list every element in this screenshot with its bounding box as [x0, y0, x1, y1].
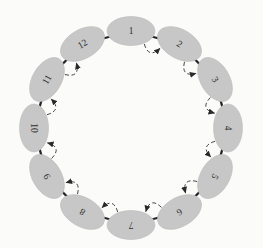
dashed-arrow-2-3: [184, 62, 196, 74]
node-4: 4: [214, 104, 243, 152]
dashed-arrow-3-4: [206, 98, 215, 114]
dashed-arrow-4-5: [206, 141, 215, 157]
dashed-arrow-11-12: [65, 63, 77, 75]
node-label: 10: [29, 123, 39, 133]
node-2: 2: [151, 19, 207, 68]
node-label: 4: [223, 126, 233, 131]
dashed-arrow-8-9: [66, 182, 78, 194]
node-1: 1: [107, 17, 155, 46]
nodes: 123456789101112: [20, 17, 243, 240]
node-label: 1: [129, 26, 134, 36]
dashed-arrow-6-7: [146, 203, 162, 212]
dashed-arrow-9-10: [47, 143, 56, 159]
node-6: 6: [151, 187, 207, 236]
node-label: 7: [128, 220, 133, 230]
ring-diagram: 123456789101112: [0, 0, 263, 248]
node-8: 8: [54, 187, 110, 236]
dashed-arrow-10-11: [47, 99, 56, 115]
dashed-arrow-1-2: [144, 44, 160, 53]
node-5: 5: [190, 148, 239, 204]
dashed-arrow-7-8: [102, 203, 118, 212]
dashed-arrow-5-6: [185, 181, 197, 193]
node-11: 11: [22, 51, 71, 107]
ring-edges: [34, 31, 228, 225]
figure: 123456789101112: [0, 0, 263, 248]
node-3: 3: [190, 51, 239, 107]
node-9: 9: [22, 148, 71, 204]
node-10: 10: [20, 104, 49, 152]
node-7: 7: [107, 211, 155, 240]
node-12: 12: [54, 19, 110, 68]
dashed-arrows: [47, 44, 215, 212]
